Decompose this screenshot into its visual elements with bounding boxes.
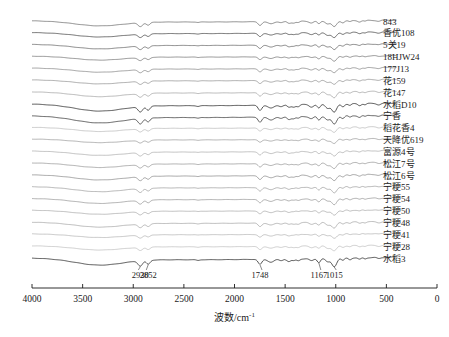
peak-label-1748: 1748 bbox=[252, 270, 269, 280]
x-axis-title: 波数/cm-1 bbox=[214, 311, 255, 323]
spectrum-line-songjiang7hao bbox=[32, 162, 397, 169]
series-label-shuidaoD10: 水稻D10 bbox=[383, 99, 417, 110]
series-label-5guan19: 5关19 bbox=[383, 39, 406, 50]
peak-label-1015: 1015 bbox=[326, 270, 343, 280]
spectrum-line-xiangyou108 bbox=[32, 32, 397, 38]
spectrum-line-ningxiang bbox=[32, 115, 397, 124]
spectrum-line-ningjing54 bbox=[32, 198, 397, 205]
x-axis-tick-label-0: 0 bbox=[435, 294, 440, 304]
series-label-shuidao3: 水稻3 bbox=[383, 253, 406, 264]
series-label-xiangyou108: 香优108 bbox=[383, 27, 415, 38]
spectrum-line-hua159 bbox=[32, 79, 397, 84]
spectrum-line-ningjing50 bbox=[32, 209, 397, 215]
x-axis-tick-label-3500: 3500 bbox=[73, 294, 92, 304]
spectrum-line-ningjing48 bbox=[32, 221, 397, 228]
series-label-843: 843 bbox=[383, 17, 397, 27]
spectrum-line-shuidaoD10 bbox=[32, 103, 397, 112]
peak-label-1167: 1167 bbox=[310, 270, 327, 280]
series-label-ningjing55: 宁粳55 bbox=[383, 181, 411, 192]
series-label-ningxiang: 宁香 bbox=[383, 110, 401, 121]
spectrum-line-ningjing41 bbox=[32, 233, 397, 238]
spectrum-line-177J13 bbox=[32, 67, 397, 72]
x-axis-tick-label-2500: 2500 bbox=[174, 294, 193, 304]
series-label-hua159: 花159 bbox=[383, 75, 406, 86]
x-axis-tick-label-2000: 2000 bbox=[225, 294, 244, 304]
spectrum-line-tianjiangyou619 bbox=[32, 138, 397, 143]
spectrum-line-songjiang6hao bbox=[32, 174, 397, 181]
x-axis-tick-label-1500: 1500 bbox=[276, 294, 295, 304]
spectrum-line-ningjing28 bbox=[32, 245, 397, 251]
ftir-spectra-chart: 843香优1085关1918HJW24177J13花159花147水稻D10宁香… bbox=[0, 0, 449, 337]
series-label-ningjing28: 宁粳28 bbox=[383, 241, 411, 252]
series-label-ningjing50: 宁粳50 bbox=[383, 205, 411, 216]
x-axis-tick-label-1000: 1000 bbox=[326, 294, 345, 304]
spectrum-line-daohuaxiang4 bbox=[32, 127, 397, 133]
x-axis-tick-label-4000: 4000 bbox=[23, 294, 42, 304]
spectrum-line-ningjing55 bbox=[32, 186, 397, 193]
spectrum-line-843 bbox=[32, 20, 397, 27]
series-label-daohuaxiang4: 稻花香4 bbox=[383, 122, 415, 133]
series-label-ningjing48: 宁粳48 bbox=[383, 217, 411, 228]
spectrum-line-5guan19 bbox=[32, 44, 397, 50]
peak-label-2852: 2852 bbox=[140, 270, 157, 280]
series-label-songjiang7hao: 松江7号 bbox=[383, 158, 415, 169]
x-axis-tick-label-500: 500 bbox=[379, 294, 394, 304]
series-label-ningjing41: 宁粳41 bbox=[383, 229, 410, 240]
x-axis-tick-label-3000: 3000 bbox=[124, 294, 143, 304]
series-label-fuyuan4hao: 富源4号 bbox=[383, 146, 415, 157]
series-label-ningjing54: 宁粳54 bbox=[383, 193, 411, 204]
series-label-tianjiangyou619: 天降优619 bbox=[383, 134, 424, 145]
spectrum-line-shuidao3 bbox=[32, 257, 397, 267]
series-label-songjiang6hao: 松江6号 bbox=[383, 170, 415, 181]
series-label-177J13: 177J13 bbox=[383, 64, 410, 74]
series-label-18HJW24: 18HJW24 bbox=[383, 52, 420, 62]
spectrum-line-hua147 bbox=[32, 91, 397, 98]
peak-leader-1167 bbox=[319, 263, 321, 270]
spectrum-line-18HJW24 bbox=[32, 55, 397, 61]
chart-canvas: 843香优1085关1918HJW24177J13花159花147水稻D10宁香… bbox=[0, 0, 449, 337]
spectrum-line-fuyuan4hao bbox=[32, 150, 397, 156]
series-label-hua147: 花147 bbox=[383, 87, 406, 98]
